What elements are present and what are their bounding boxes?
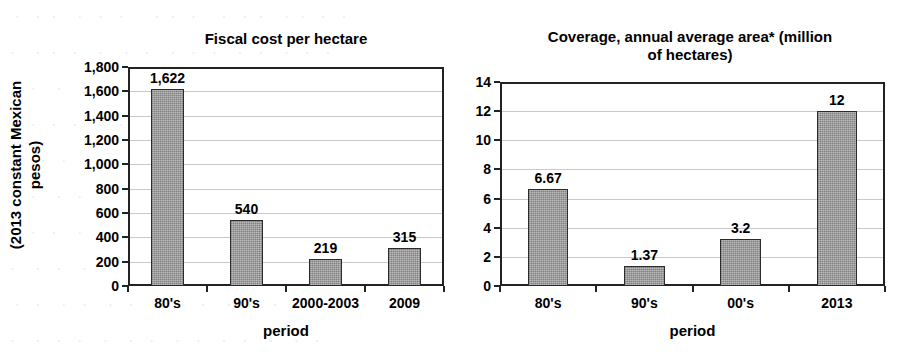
y-tick-mark — [122, 139, 128, 141]
y-tick-label: 400 — [96, 229, 119, 245]
y-tick-mark — [494, 110, 500, 112]
bar-value-label: 3.2 — [731, 220, 750, 236]
y-tick-label: 0 — [111, 278, 119, 294]
x-tick-label: 90's — [631, 295, 658, 311]
y-tick-label: 1,600 — [84, 83, 119, 99]
x-tick-mark — [499, 286, 501, 292]
bar-value-label: 1.37 — [631, 247, 658, 263]
x-tick-label: 2009 — [389, 295, 420, 311]
y-tick-label: 14 — [475, 74, 491, 90]
x-tick-mark — [364, 286, 366, 292]
y-tick-label: 800 — [96, 181, 119, 197]
bar-fiscal-cost-0 — [151, 89, 184, 286]
bar-value-label: 12 — [829, 92, 845, 108]
chart-title-line-1: Coverage, annual average area* (million — [548, 28, 832, 45]
bar-fiscal-cost-2 — [309, 259, 342, 286]
bar-coverage-area-2 — [720, 239, 760, 286]
y-tick-mark — [494, 139, 500, 141]
x-tick-mark — [443, 286, 445, 292]
bar-value-label: 1,622 — [150, 70, 185, 86]
chart-panel-coverage-area: Coverage, annual average area* (million … — [460, 0, 920, 361]
bar-coverage-area-3 — [817, 111, 857, 286]
y-tick-mark — [494, 81, 500, 83]
x-tick-mark — [884, 286, 886, 292]
bar-fiscal-cost-3 — [388, 248, 421, 286]
x-tick-label: 90's — [233, 295, 260, 311]
y-tick-mark — [494, 168, 500, 170]
x-tick-mark — [788, 286, 790, 292]
x-tick-mark — [692, 286, 694, 292]
chart-title-fiscal-cost: Fiscal cost per hectare — [128, 30, 444, 48]
y-tick-label: 1,400 — [84, 108, 119, 124]
x-tick-label: 80's — [154, 295, 181, 311]
chart-panel-fiscal-cost: Fiscal cost per hectare (2013 constant M… — [0, 0, 460, 361]
y-tick-mark — [122, 188, 128, 190]
chart-title-line-2: of hectares) — [647, 46, 732, 63]
y-tick-label: 4 — [483, 220, 491, 236]
bar-value-label: 6.67 — [535, 170, 562, 186]
y-tick-label: 600 — [96, 205, 119, 221]
y-tick-label: 0 — [483, 278, 491, 294]
bar-coverage-area-0 — [528, 189, 568, 286]
chart-title-coverage-area: Coverage, annual average area* (million … — [480, 28, 900, 64]
y-tick-mark — [122, 163, 128, 165]
y-tick-label: 1,200 — [84, 132, 119, 148]
x-tick-mark — [285, 286, 287, 292]
two-chart-figure: Fiscal cost per hectare (2013 constant M… — [0, 0, 920, 361]
y-tick-mark — [494, 198, 500, 200]
y-tick-label: 8 — [483, 161, 491, 177]
x-tick-mark — [206, 286, 208, 292]
x-tick-label: 80's — [535, 295, 562, 311]
y-tick-label: 1,000 — [84, 156, 119, 172]
x-tick-mark — [127, 286, 129, 292]
x-axis-label-coverage-area: period — [500, 322, 885, 339]
y-tick-label: 10 — [475, 132, 491, 148]
y-tick-mark — [122, 236, 128, 238]
x-tick-mark — [595, 286, 597, 292]
y-tick-label: 200 — [96, 254, 119, 270]
bar-fiscal-cost-1 — [230, 220, 263, 286]
y-axis-label-fiscal-cost: (2013 constant Mexican pesos) — [6, 40, 44, 290]
x-tick-label: 00's — [727, 295, 754, 311]
y-tick-mark — [122, 90, 128, 92]
y-tick-mark — [494, 256, 500, 258]
bar-coverage-area-1 — [624, 266, 664, 286]
bar-value-label: 540 — [235, 201, 258, 217]
y-tick-mark — [122, 261, 128, 263]
y-tick-mark — [122, 115, 128, 117]
y-tick-mark — [122, 212, 128, 214]
y-tick-label: 6 — [483, 191, 491, 207]
y-tick-label: 1,800 — [84, 59, 119, 75]
y-tick-label: 12 — [475, 103, 491, 119]
y-tick-mark — [494, 227, 500, 229]
x-tick-label: 2013 — [821, 295, 852, 311]
y-tick-label: 2 — [483, 249, 491, 265]
x-tick-label: 2000-2003 — [292, 295, 359, 311]
bar-value-label: 219 — [314, 240, 337, 256]
x-axis-label-fiscal-cost: period — [128, 322, 444, 339]
y-tick-mark — [122, 66, 128, 68]
bar-value-label: 315 — [393, 229, 416, 245]
